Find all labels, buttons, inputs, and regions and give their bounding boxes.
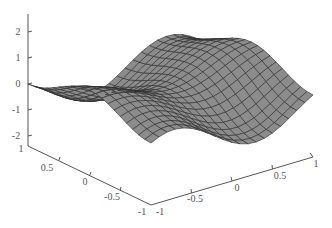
z-tick-label: -2 — [12, 131, 20, 141]
left-floor-tick-label: -0.5 — [104, 192, 120, 202]
z-tick-label: 2 — [16, 27, 21, 37]
z-tick-label: 1 — [16, 53, 21, 63]
right-floor-tick-label: 1 — [314, 159, 319, 169]
left-floor-tick-label: 0.5 — [41, 163, 54, 173]
left-floor-tick-label: 1 — [19, 144, 24, 154]
right-floor-tick-label: -1 — [156, 207, 164, 217]
z-tick-label: 0 — [16, 79, 21, 89]
right-floor-tick-label: -0.5 — [187, 194, 203, 204]
left-floor-tick-label: 0 — [83, 177, 88, 187]
surface-mesh — [28, 35, 313, 144]
right-floor-tick-label: 0.5 — [274, 171, 287, 181]
surface-plot — [0, 0, 332, 228]
left-floor-tick-label: -1 — [138, 207, 146, 217]
right-floor-tick-label: 0 — [235, 183, 240, 193]
z-tick-label: -1 — [12, 105, 20, 115]
